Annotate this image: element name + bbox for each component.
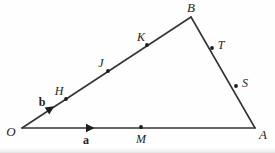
point-label-M: M [136,133,146,145]
point-label-H: H [55,85,64,97]
vertex-label-O: O [6,125,15,138]
point-dot-T [210,46,214,50]
point-dot-S [234,84,238,88]
point-label-J: J [98,57,103,69]
vertex-label-B: B [187,1,195,14]
vector-a-arrowhead [86,124,95,132]
marked-points [64,43,238,129]
point-dot-H [64,97,68,101]
point-label-S: S [242,77,248,89]
point-dot-J [106,69,110,73]
geometry-figure: O A B H J K T S M a b [0,0,275,153]
vector-label-a: a [83,134,89,146]
vertex-label-A: A [259,128,267,141]
point-dot-K [145,43,149,47]
point-label-T: T [218,39,225,51]
edge-B-to-A [191,17,255,128]
figure-canvas [0,0,275,153]
point-label-K: K [137,31,145,43]
point-dot-M [139,125,143,129]
vector-label-b: b [39,96,46,108]
